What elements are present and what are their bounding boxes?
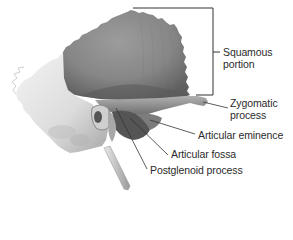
meatus-opening [94, 111, 102, 123]
label-postglenoid-text: Postglenoid process [150, 164, 243, 176]
label-squamous-line1: Squamous [223, 46, 272, 58]
label-articular-fossa: Articular fossa [171, 148, 236, 160]
label-zygomatic-line1: Zygomatic [230, 97, 278, 109]
articular-eminence-leader [150, 120, 195, 134]
zygomatic-leader [203, 102, 228, 108]
styloid-process-shape [104, 146, 130, 190]
label-zygomatic-line2: process [230, 109, 278, 121]
label-zygomatic-process: Zygomatic process [230, 97, 278, 121]
label-articular-eminence: Articular eminence [198, 129, 283, 141]
label-squamous-portion: Squamous portion [223, 46, 272, 70]
label-postglenoid-process: Postglenoid process [150, 164, 243, 176]
mastoid-shading [70, 134, 90, 146]
label-squamous-line2: portion [223, 58, 272, 70]
label-articular-fossa-text: Articular fossa [171, 148, 236, 160]
label-articular-eminence-text: Articular eminence [198, 129, 283, 141]
